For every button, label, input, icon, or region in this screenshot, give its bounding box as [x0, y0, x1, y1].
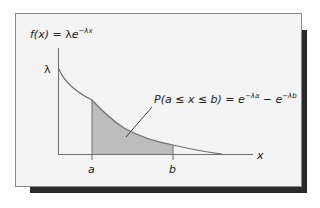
term1-exponent: −λa	[245, 92, 259, 100]
term2-exponent: −λb	[282, 92, 296, 100]
probability-label: P(a ≤ x ≤ b) = e−λa − e−λb	[154, 93, 297, 105]
bound-a-label: a	[88, 164, 95, 175]
function-lhs: f(x)	[30, 28, 49, 41]
minus-sign: −	[259, 93, 275, 106]
exp-exponent: −λx	[78, 27, 92, 35]
probability-text: P(a ≤ x ≤ b) =	[154, 93, 238, 106]
bound-b-label: b	[169, 164, 176, 175]
x-axis-label: x	[257, 150, 264, 161]
annotation-leader-line	[126, 107, 152, 137]
probability-shaded-area	[92, 100, 173, 154]
term1-base: e	[238, 93, 245, 106]
function-label: f(x) = λe−λx	[30, 28, 93, 40]
y-tick-lambda: λ	[44, 64, 51, 75]
equals-sign: =	[49, 28, 65, 41]
